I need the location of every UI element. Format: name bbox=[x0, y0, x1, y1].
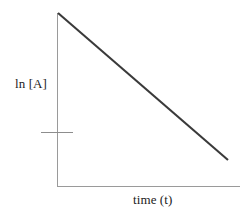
data-series-line bbox=[58, 13, 228, 160]
y-axis-label: ln [A] bbox=[15, 77, 47, 90]
plot-canvas bbox=[0, 0, 250, 217]
kinetics-plot-figure: ln [A] time (t) bbox=[0, 0, 250, 217]
x-axis-label: time (t) bbox=[133, 193, 172, 206]
